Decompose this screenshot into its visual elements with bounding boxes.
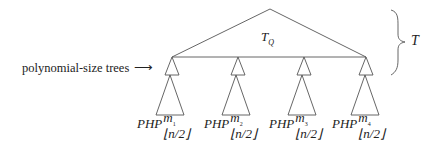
leaf-sup: m xyxy=(163,110,172,125)
leaf-sup-index: 3 xyxy=(305,121,308,127)
php-tree-3 xyxy=(288,75,316,115)
leaf-label-2: PHPm2⌊n/2⌋ xyxy=(204,113,257,138)
php-tree-4 xyxy=(351,75,379,115)
top-tree-label: TQ xyxy=(261,29,274,47)
leaf-sup-index: 2 xyxy=(240,121,243,127)
leaf-sup: m xyxy=(358,110,367,125)
leaf-label-1: PHPm1⌊n/2⌋ xyxy=(137,113,190,138)
php-tree-2 xyxy=(222,75,250,115)
brace-label: T xyxy=(411,33,419,49)
arrow-right-icon: ⟶ xyxy=(134,61,153,75)
brace-label-text: T xyxy=(411,33,419,48)
leaf-label-3: PHPm3⌊n/2⌋ xyxy=(269,113,322,138)
leaf-sub: ⌊n/2⌋ xyxy=(230,129,257,138)
leaf-base: PHP xyxy=(332,116,357,131)
leaf-sup: m xyxy=(295,110,304,125)
leaf-label-4: PHPm4⌊n/2⌋ xyxy=(332,113,385,138)
poly-tree-3 xyxy=(297,57,311,75)
leaf-base: PHP xyxy=(204,116,229,131)
right-brace xyxy=(391,10,405,75)
poly-tree-4 xyxy=(359,57,373,75)
leaf-sub: ⌊n/2⌋ xyxy=(163,129,190,138)
leaf-sub: ⌊n/2⌋ xyxy=(358,129,385,138)
annotation: polynomial-size trees ⟶ xyxy=(22,60,153,76)
php-tree-1 xyxy=(156,75,184,115)
leaf-sup-index: 4 xyxy=(368,121,371,127)
poly-tree-1 xyxy=(165,57,179,75)
leaf-base: PHP xyxy=(269,116,294,131)
top-tree-label-subscript: Q xyxy=(268,38,274,47)
leaf-base: PHP xyxy=(137,116,162,131)
annotation-text: polynomial-size trees xyxy=(22,61,129,75)
leaf-sup-index: 1 xyxy=(173,121,176,127)
poly-tree-2 xyxy=(231,57,245,75)
leaf-sub: ⌊n/2⌋ xyxy=(295,129,322,138)
leaf-sup: m xyxy=(230,110,239,125)
